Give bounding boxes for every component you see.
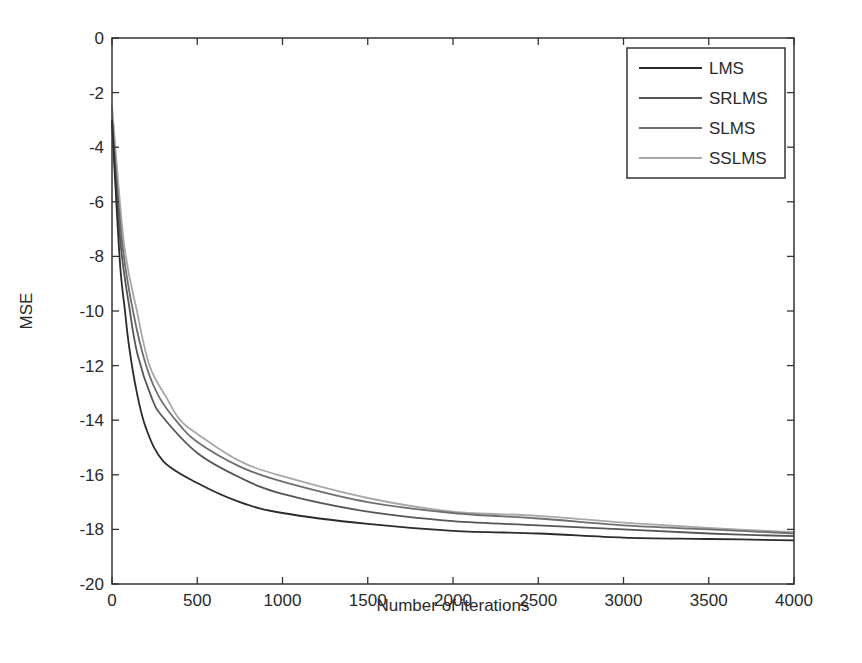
x-tick-label: 0 [107, 591, 116, 610]
y-tick-label: -6 [89, 193, 104, 212]
x-tick-label: 3000 [605, 591, 643, 610]
y-tick-label: -16 [79, 466, 104, 485]
y-tick-label: -2 [89, 84, 104, 103]
x-tick-label: 500 [183, 591, 211, 610]
x-tick-label: 3500 [690, 591, 728, 610]
x-tick-label: 4000 [775, 591, 813, 610]
legend-label-lms: LMS [709, 59, 744, 78]
y-tick-label: -10 [79, 302, 104, 321]
y-tick-label: -18 [79, 520, 104, 539]
y-axis-label: MSE [17, 293, 36, 330]
x-tick-label: 1000 [264, 591, 302, 610]
x-axis-label: Number of iterations [376, 596, 529, 615]
legend: LMSSRLMSSLMSSSLMS [627, 48, 785, 178]
legend-label-srlms: SRLMS [709, 89, 768, 108]
legend-label-sslms: SSLMS [709, 149, 767, 168]
y-tick-label: -12 [79, 357, 104, 376]
y-tick-label: -8 [89, 247, 104, 266]
y-tick-label: 0 [95, 29, 104, 48]
legend-label-slms: SLMS [709, 119, 755, 138]
y-tick-label: -20 [79, 575, 104, 594]
y-tick-label: -4 [89, 138, 104, 157]
mse-line-chart: 05001000150020002500300035004000 0-2-4-6… [0, 0, 862, 663]
y-tick-label: -14 [79, 411, 104, 430]
